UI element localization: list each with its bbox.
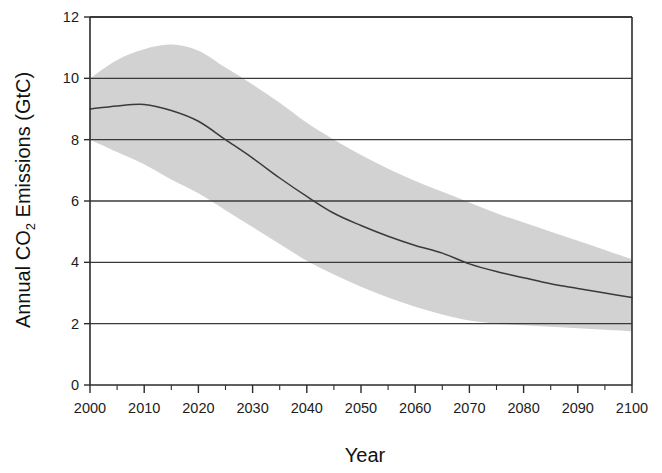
- x-tick-label-2010: 2010: [128, 400, 160, 416]
- x-axis-label-text: Year: [345, 444, 386, 466]
- y-axis-label-after: Emissions (GtC): [12, 72, 34, 223]
- x-tick-label-2080: 2080: [507, 400, 539, 416]
- chart-figure: 024681012 200020102020203020402050206020…: [0, 0, 662, 473]
- y-tick-label-6: 6: [71, 193, 79, 209]
- x-axis-label: Year: [345, 444, 386, 466]
- emissions-line-chart: 024681012 200020102020203020402050206020…: [0, 0, 662, 473]
- x-tick-label-2000: 2000: [74, 400, 106, 416]
- x-tick-label-2020: 2020: [182, 400, 214, 416]
- y-tick-label-0: 0: [71, 377, 79, 393]
- x-tick-label-2040: 2040: [291, 400, 323, 416]
- y-tick-label-4: 4: [71, 254, 79, 270]
- x-tick-label-2030: 2030: [236, 400, 268, 416]
- x-tick-label-2070: 2070: [453, 400, 485, 416]
- y-axis-label-subscript: 2: [23, 223, 38, 230]
- x-tick-label-2100: 2100: [616, 400, 648, 416]
- x-tick-label-2090: 2090: [562, 400, 594, 416]
- x-tick-label-2050: 2050: [345, 400, 377, 416]
- y-axis-label-before: Annual CO: [12, 230, 34, 328]
- y-tick-label-10: 10: [63, 70, 79, 86]
- x-tick-label-2060: 2060: [399, 400, 431, 416]
- y-tick-label-8: 8: [71, 132, 79, 148]
- y-tick-label-12: 12: [63, 9, 79, 25]
- y-tick-label-2: 2: [71, 316, 79, 332]
